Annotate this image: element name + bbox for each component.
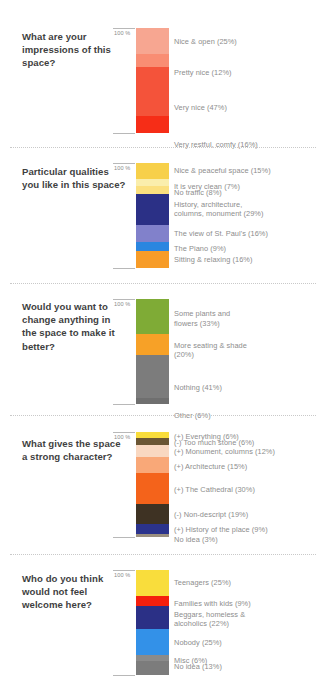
bar-segment: [136, 457, 169, 473]
stacked-bar: [136, 163, 169, 268]
segment-label: (+) History of the place (9%): [174, 525, 268, 535]
segment-label: Sitting & relaxing (16%): [174, 255, 252, 265]
segment-label: Families with kids (9%): [174, 599, 251, 609]
bar-segment: [136, 28, 169, 54]
segment-label: (+) Monument, columns (12%): [174, 447, 275, 457]
bar-segment: [136, 524, 169, 533]
axis-tick-bottom: [113, 404, 135, 405]
segment-label: The Piano (9%): [174, 244, 226, 254]
bar-segment: [136, 242, 169, 251]
axis-max-label: 100 %: [114, 30, 130, 36]
question-title: Would you want to change anything in the…: [22, 300, 127, 353]
axis-tick-bottom: [113, 268, 135, 269]
segment-label: (+) The Cathedral (30%): [174, 485, 255, 495]
bar-segment: [136, 606, 169, 629]
segment-label: Pretty nice (12%): [174, 68, 232, 78]
bar-segment: [136, 186, 169, 194]
segment-label: Very nice (47%): [174, 103, 227, 113]
axis-max-label: 100 %: [114, 572, 130, 578]
bar-segment: [136, 445, 169, 458]
axis-max-label: 100 %: [114, 301, 130, 307]
segment-label: Beggars, homeless & alcoholics (22%): [174, 610, 245, 629]
stacked-bar: [136, 570, 169, 675]
segment-label: Teenagers (25%): [174, 578, 231, 588]
segment-label: (-) Non-descript (19%): [174, 510, 248, 520]
bar-segment: [136, 225, 169, 242]
question-title: What are your impressions of this space?: [22, 30, 127, 70]
bar-segment: [136, 251, 169, 268]
bar-segment: [136, 163, 169, 179]
segment-label: No idea (13%): [174, 662, 222, 672]
segment-label: Nobody (25%): [174, 638, 222, 648]
bar-segment: [136, 67, 169, 116]
survey-results-sheet: What are your impressions of this space?…: [0, 0, 326, 698]
segment-label: No traffic (8%): [174, 188, 222, 198]
segment-label: Very restful, comfy (16%): [174, 140, 258, 150]
segment-label: History, architecture, columns, monument…: [174, 200, 263, 219]
question-title: What gives the space a strong character?: [22, 437, 127, 463]
segment-label: Nice & open (25%): [174, 37, 237, 47]
segment-label: The view of St. Paul's (16%): [174, 229, 268, 239]
bar-segment: [136, 473, 169, 505]
segment-label: Some plants and flowers (33%): [174, 309, 230, 328]
segment-label: More seating & shade (20%): [174, 341, 247, 360]
axis-tick-bottom: [113, 537, 135, 538]
segment-label: Nothing (41%): [174, 383, 222, 393]
section-separator: [10, 147, 316, 148]
segment-label: (+) Architecture (15%): [174, 462, 247, 472]
section-separator: [10, 283, 316, 284]
bar-segment: [136, 398, 169, 404]
bar-segment: [136, 534, 169, 537]
bar-segment: [136, 334, 169, 355]
question-title: Particular qualities you like in this sp…: [22, 165, 127, 191]
question-title: Who do you think would not feel welcome …: [22, 572, 127, 612]
section-separator: [10, 415, 316, 416]
bar-segment: [136, 661, 169, 675]
bar-segment: [136, 596, 169, 605]
stacked-bar: [136, 432, 169, 537]
segment-label: No idea (3%): [174, 535, 218, 545]
stacked-bar: [136, 28, 169, 133]
bar-segment: [136, 179, 169, 186]
stacked-bar: [136, 299, 169, 404]
section-separator: [10, 554, 316, 555]
bar-segment: [136, 194, 169, 224]
bar-segment: [136, 355, 169, 398]
bar-segment: [136, 629, 169, 655]
axis-tick-bottom: [113, 675, 135, 676]
bar-segment: [136, 54, 169, 67]
axis-tick-bottom: [113, 133, 135, 134]
segment-label: Nice & peaceful space (15%): [174, 166, 271, 176]
axis-max-label: 100 %: [114, 434, 130, 440]
axis-max-label: 100 %: [114, 165, 130, 171]
bar-segment: [136, 299, 169, 334]
bar-segment: [136, 570, 169, 596]
bar-segment: [136, 504, 169, 524]
bar-segment: [136, 116, 169, 133]
